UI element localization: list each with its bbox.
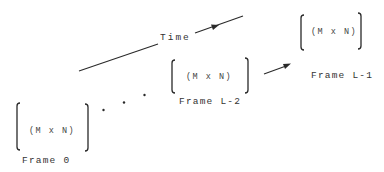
frame-l-2-label: Frame L-2 — [179, 97, 241, 107]
ellipsis-dot-1 — [102, 109, 104, 111]
frame-l-2-right-bracket-icon — [245, 58, 248, 93]
time-arrowhead-icon — [211, 25, 219, 31]
time-axis-line-left — [79, 44, 158, 71]
frame-l-2-left-bracket-icon — [172, 60, 175, 93]
frame-0-right-bracket-icon — [85, 104, 88, 151]
frame-l-2-dimension: (M x N) — [186, 73, 232, 82]
frame-0-label: Frame 0 — [22, 156, 70, 166]
frame-l-1-left-bracket-icon — [301, 15, 304, 50]
time-axis-label: Time — [160, 33, 191, 43]
frame-l-1-label: Frame L-1 — [311, 71, 373, 81]
frame-l-1-dimension: (M x N) — [311, 28, 357, 37]
frame-sequence-diagram — [0, 0, 384, 172]
frame-transition-arrow-line — [264, 66, 286, 74]
ellipsis-dot-3 — [143, 94, 145, 96]
time-axis — [79, 16, 243, 71]
frame-transition-arrowhead-icon — [283, 64, 291, 70]
frame-l-1-right-bracket-icon — [358, 13, 361, 49]
ellipsis-dots — [102, 94, 145, 111]
frame-0-dimension: (M x N) — [29, 127, 75, 136]
frame-0-left-bracket-icon — [17, 103, 20, 150]
ellipsis-dot-2 — [123, 101, 125, 103]
time-axis-line-right — [195, 16, 243, 33]
